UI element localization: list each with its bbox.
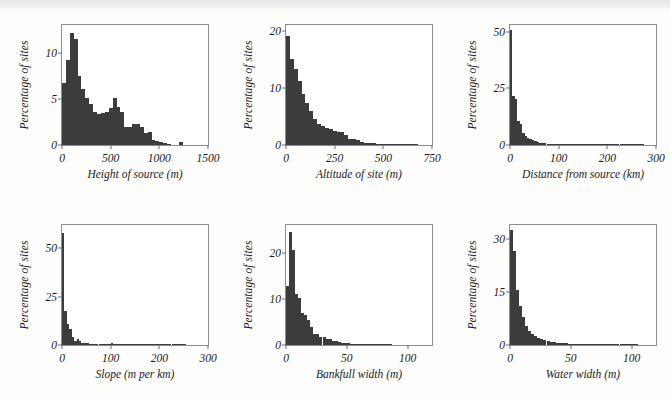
x-axis-label: Height of source (m) — [61, 168, 209, 180]
x-tick-mark — [110, 345, 111, 349]
y-tick-mark — [282, 30, 286, 31]
x-tick-mark — [432, 145, 433, 149]
y-tick-mark — [58, 248, 62, 249]
x-tick-label: 100 — [399, 352, 416, 364]
chart-panel-altitude-of-site: 010200250500750Percentage of sitesAltitu… — [224, 0, 439, 196]
x-tick-mark — [159, 345, 160, 349]
x-axis-label: Bankfull width (m) — [285, 368, 433, 380]
x-tick-label: 200 — [599, 152, 616, 164]
bar-series-height-of-source — [62, 25, 208, 145]
x-tick-mark — [334, 145, 335, 149]
bar — [167, 144, 171, 145]
x-tick-mark — [110, 145, 111, 149]
plot-area-bankfull-width: 01020050100Percentage of sites — [285, 224, 433, 346]
y-axis-label: Percentage of sites — [466, 210, 478, 360]
y-tick-mark — [282, 298, 286, 299]
y-axis-label: Percentage of sites — [18, 210, 30, 360]
x-tick-label: 500 — [102, 152, 119, 164]
plot-area-altitude-of-site: 010200250500750Percentage of sites — [285, 24, 433, 146]
x-tick-label: 0 — [59, 352, 65, 364]
x-tick-mark — [570, 345, 571, 349]
y-tick-mark — [506, 31, 510, 32]
x-tick-mark — [62, 345, 63, 349]
chart-panel-bankfull-width: 01020050100Percentage of sitesBankfull w… — [224, 200, 439, 396]
x-tick-mark — [407, 345, 408, 349]
x-tick-label: 0 — [283, 352, 289, 364]
chart-panel-height-of-source: 0510050010001500Percentage of sitesHeigh… — [0, 0, 215, 196]
x-axis-label: Distance from source (km) — [509, 168, 657, 180]
y-axis-label: Percentage of sites — [18, 10, 30, 160]
x-tick-label: 0 — [507, 152, 513, 164]
plot-area-height-of-source: 0510050010001500Percentage of sites — [61, 24, 209, 146]
bar — [641, 144, 643, 145]
y-tick-mark — [506, 292, 510, 293]
y-tick-mark — [506, 239, 510, 240]
x-tick-mark — [62, 145, 63, 149]
bar — [414, 144, 418, 145]
x-tick-mark — [286, 345, 287, 349]
x-tick-label: 300 — [647, 152, 664, 164]
bar — [179, 142, 183, 145]
y-tick-mark — [58, 296, 62, 297]
x-tick-mark — [208, 345, 209, 349]
plot-area-water-width: 01530050100Percentage of sites — [509, 224, 657, 346]
x-tick-label: 1000 — [148, 152, 171, 164]
x-tick-mark — [558, 145, 559, 149]
x-tick-mark — [159, 145, 160, 149]
x-tick-mark — [208, 145, 209, 149]
x-tick-mark — [383, 145, 384, 149]
y-axis-label: Percentage of sites — [242, 210, 254, 360]
x-tick-mark — [510, 145, 511, 149]
x-axis-label: Altitude of site (m) — [285, 168, 433, 180]
x-tick-mark — [510, 345, 511, 349]
y-tick-mark — [506, 88, 510, 89]
x-tick-mark — [607, 145, 608, 149]
bar — [184, 344, 186, 345]
x-tick-mark — [631, 345, 632, 349]
y-tick-mark — [282, 252, 286, 253]
x-tick-label: 0 — [507, 352, 513, 364]
chart-panel-water-width: 01530050100Percentage of sitesWater widt… — [448, 200, 663, 396]
x-tick-mark — [656, 145, 657, 149]
x-tick-label: 200 — [151, 352, 168, 364]
x-tick-mark — [346, 345, 347, 349]
x-tick-mark — [286, 145, 287, 149]
x-axis-label: Water width (m) — [509, 368, 657, 380]
bar-series-bankfull-width — [286, 225, 432, 345]
x-tick-label: 100 — [102, 352, 119, 364]
bar-series-altitude-of-site — [286, 25, 432, 145]
y-axis-label: Percentage of sites — [242, 10, 254, 160]
chart-panel-slope: 025500100200300Percentage of sitesSlope … — [0, 200, 215, 396]
x-tick-label: 500 — [375, 152, 392, 164]
bar-series-water-width — [510, 225, 656, 345]
bar-series-distance-from-source — [510, 25, 656, 145]
x-tick-label: 300 — [199, 352, 216, 364]
plot-area-slope: 025500100200300Percentage of sites — [61, 224, 209, 346]
x-tick-label: 100 — [623, 352, 640, 364]
y-tick-mark — [282, 87, 286, 88]
y-tick-mark — [58, 52, 62, 53]
bar — [389, 344, 392, 345]
x-tick-label: 50 — [565, 352, 577, 364]
x-tick-label: 0 — [59, 152, 65, 164]
x-tick-label: 250 — [326, 152, 343, 164]
x-tick-label: 50 — [341, 352, 353, 364]
x-tick-label: 0 — [283, 152, 289, 164]
x-axis-label: Slope (m per km) — [61, 368, 209, 380]
bar — [635, 344, 638, 345]
y-tick-mark — [58, 98, 62, 99]
bar-series-slope — [62, 225, 208, 345]
x-tick-label: 100 — [550, 152, 567, 164]
x-tick-label: 1500 — [197, 152, 220, 164]
plot-area-distance-from-source: 025500100200300Percentage of sites — [509, 24, 657, 146]
x-tick-label: 750 — [423, 152, 440, 164]
y-axis-label: Percentage of sites — [466, 10, 478, 160]
chart-panel-distance-from-source: 025500100200300Percentage of sitesDistan… — [448, 0, 663, 196]
